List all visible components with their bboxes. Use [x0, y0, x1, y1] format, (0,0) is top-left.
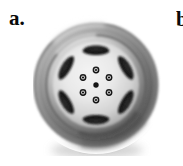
photo-vignette: [33, 16, 165, 154]
wheel-figure: [33, 14, 165, 156]
panel-label-a: a.: [9, 8, 25, 29]
panel-label-b-partial: b.: [176, 9, 183, 29]
wheel-image: [33, 14, 165, 156]
